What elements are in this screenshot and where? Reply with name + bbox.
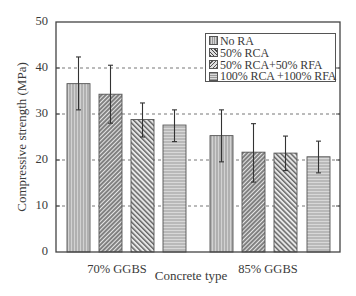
y-tick-label: 10 [28, 198, 48, 213]
y-tick-label: 30 [28, 106, 48, 121]
horizontal-lines-swatch-icon [209, 72, 218, 81]
y-axis-title: Compressive strength (MPa) [14, 62, 30, 211]
y-tick-label: 20 [28, 152, 48, 167]
x-axis-title: Concrete type [155, 268, 228, 284]
vertical-lines-swatch-icon [209, 36, 218, 45]
back-diagonal-swatch-icon [209, 48, 218, 57]
legend: No RA 50% RCA 50% RCA+50% RFA 100% RCA +… [205, 33, 336, 82]
bars [67, 84, 330, 252]
legend-item-50-rca: 50% RCA [209, 47, 335, 59]
legend-label: 50% RCA [220, 47, 269, 59]
legend-item-100-rca-100-rfa: 100% RCA +100% RFA [209, 70, 335, 82]
diagonal-swatch-icon [209, 60, 218, 69]
y-tick-label: 40 [28, 60, 48, 75]
bar [131, 120, 154, 252]
x-category-70-ggbs: 70% GGBS [87, 262, 146, 277]
legend-label: 100% RCA +100% RFA [220, 70, 336, 82]
y-tick-label: 0 [28, 244, 48, 259]
x-category-85-ggbs: 85% GGBS [238, 262, 297, 277]
y-tick-label: 50 [28, 14, 48, 29]
bar [163, 125, 186, 252]
